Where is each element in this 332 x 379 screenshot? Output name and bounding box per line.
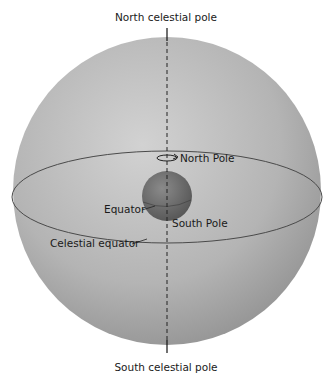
celestial-equator-label: Celestial equator [50, 237, 140, 249]
north-pole-label: North Pole [180, 152, 234, 164]
north-celestial-pole-label: North celestial pole [115, 11, 217, 23]
south-pole-label: South Pole [172, 217, 228, 229]
equator-label: Equator [104, 203, 146, 215]
celestial-sphere-diagram: North celestial pole South celestial pol… [0, 0, 332, 379]
south-celestial-pole-label: South celestial pole [114, 361, 217, 373]
